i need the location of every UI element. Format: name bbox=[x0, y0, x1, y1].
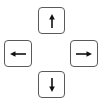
arrow-left-key[interactable] bbox=[4, 40, 32, 67]
arrow-down-key[interactable] bbox=[38, 71, 65, 98]
arrow-keys-diagram bbox=[0, 0, 105, 105]
arrow-up-key[interactable] bbox=[38, 7, 65, 34]
arrow-right-key[interactable] bbox=[70, 40, 98, 67]
arrow-down-icon bbox=[47, 77, 57, 93]
arrow-left-icon bbox=[9, 49, 27, 59]
arrow-up-icon bbox=[47, 13, 57, 29]
arrow-right-icon bbox=[75, 49, 93, 59]
